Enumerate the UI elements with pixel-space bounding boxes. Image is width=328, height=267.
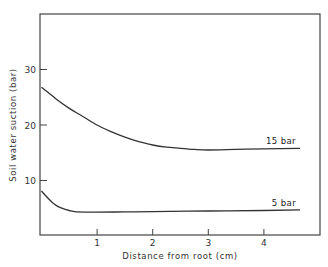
series-line-5-bar [42,191,301,212]
series-label-15-bar: 15 bar [266,136,296,146]
series-line-15-bar [42,87,301,150]
y-tick-label: 10 [25,176,37,186]
y-tick-label: 20 [25,121,37,131]
x-tick-label: 4 [261,238,267,248]
x-tick-label: 3 [205,238,211,248]
soil-water-suction-chart: 102030 1234 15 bar5 bar Soil water sucti… [0,0,328,267]
x-axis-label: Distance from root (cm) [122,251,237,261]
y-axis-ticks: 102030 [25,65,47,186]
x-tick-label: 1 [94,238,100,248]
y-tick-label: 30 [25,65,37,75]
x-axis-ticks: 1234 [94,229,267,248]
series-label-5-bar: 5 bar [272,198,296,208]
y-axis-label: Soil water suction (bar) [8,68,18,182]
series-lines: 15 bar5 bar [42,87,301,212]
x-tick-label: 2 [150,238,156,248]
